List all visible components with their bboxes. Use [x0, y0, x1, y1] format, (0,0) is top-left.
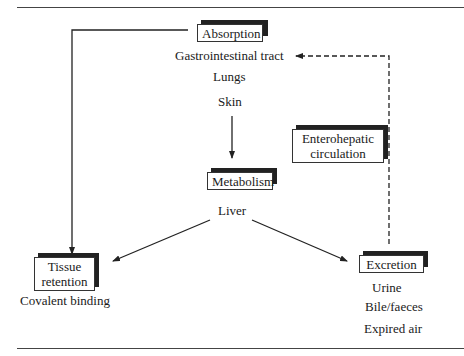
absorption-item-skin: Skin — [218, 94, 242, 109]
excretion-item-bile-faeces: Bile/faeces — [365, 299, 423, 314]
excretion-item-expired-air: Expired air — [364, 321, 422, 336]
liver-to-excretion-arrow — [252, 220, 347, 261]
enterohepatic-label-line2: circulation — [297, 146, 379, 161]
absorption-item-gi-tract: Gastrointestinal tract — [175, 48, 284, 63]
enterohepatic-label-line1: Enterohepatic — [297, 131, 379, 146]
excretion-box: Excretion — [359, 255, 424, 273]
metabolism-label: Metabolism — [212, 174, 274, 189]
absorption-to-tissue-arrow — [72, 30, 188, 254]
absorption-item-lungs: Lungs — [213, 69, 246, 84]
metabolism-item-liver: Liver — [218, 203, 246, 218]
enterohepatic-box: Enterohepatic circulation — [292, 129, 384, 163]
tissue-item-covalent-binding: Covalent binding — [20, 293, 110, 308]
metabolism-box: Metabolism — [207, 172, 273, 190]
tissue-retention-label-line2: retention — [39, 274, 90, 289]
absorption-box: Absorption — [197, 24, 263, 42]
tissue-retention-label-line1: Tissue — [39, 259, 90, 274]
excretion-label: Excretion — [366, 257, 417, 272]
excretion-item-urine: Urine — [372, 280, 402, 295]
tissue-retention-box: Tissue retention — [34, 257, 95, 291]
absorption-label: Absorption — [202, 26, 261, 41]
liver-to-tissue-arrow — [113, 220, 210, 261]
